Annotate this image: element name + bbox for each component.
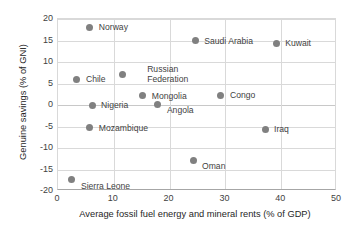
x-tick-label: 20 (149, 193, 189, 204)
gridline-vertical (281, 19, 282, 189)
data-point[interactable] (139, 92, 146, 99)
data-point-label: Iraq (274, 124, 289, 134)
data-point[interactable] (73, 76, 80, 83)
data-point[interactable] (68, 176, 75, 183)
y-tick-label: 15 (27, 35, 53, 45)
data-point-label: Saudi Arabia (204, 36, 253, 46)
data-point-label: Norway (99, 22, 128, 32)
data-point-label: Kuwait (285, 38, 311, 48)
data-point[interactable] (119, 71, 126, 78)
data-point[interactable] (86, 24, 93, 31)
gridline-horizontal (58, 19, 335, 20)
gridline-horizontal (58, 148, 335, 149)
data-point[interactable] (89, 102, 96, 109)
plot-area: NorwaySaudi ArabiaKuwaitRussianFederatio… (57, 18, 336, 190)
x-tick-label: 10 (93, 193, 133, 204)
y-tick-label: 20 (27, 13, 53, 23)
data-point[interactable] (192, 37, 199, 44)
data-point-label: Sierra Leone (81, 181, 130, 191)
data-point[interactable] (217, 92, 224, 99)
data-point[interactable] (154, 101, 161, 108)
gridline-horizontal (58, 62, 335, 63)
data-point-label: Chile (86, 74, 106, 84)
x-axis-tick-labels: 01020304050 (57, 193, 336, 207)
gridline-horizontal (58, 170, 335, 171)
data-point[interactable] (86, 124, 93, 131)
y-tick-label: 10 (27, 56, 53, 66)
x-tick-label: 30 (204, 193, 244, 204)
y-tick-label: -10 (27, 142, 53, 152)
data-point[interactable] (262, 126, 269, 133)
data-point[interactable] (190, 157, 197, 164)
data-point-label: Mozambique (99, 123, 148, 133)
data-point-label: RussianFederation (147, 64, 188, 84)
y-tick-label: 5 (27, 78, 53, 88)
x-tick-label: 0 (37, 193, 77, 204)
x-tick-label: 50 (316, 193, 356, 204)
y-axis-tick-labels: 20151050-5-10-15-20 (24, 18, 53, 190)
data-point-label: Oman (202, 161, 225, 171)
data-point-label: Congo (230, 90, 255, 100)
x-axis-title: Average fossil fuel energy and mineral r… (40, 208, 350, 220)
x-tick-label: 40 (260, 193, 300, 204)
data-point-label: Nigeria (101, 100, 128, 110)
y-tick-label: 0 (27, 99, 53, 109)
gridline-vertical (170, 19, 171, 189)
data-point-label: Angola (167, 105, 194, 115)
y-tick-label: -5 (27, 121, 53, 131)
data-point[interactable] (273, 40, 280, 47)
scatter-chart-figure: Genuine savings (% of GNI) 20151050-5-10… (0, 0, 357, 234)
data-point-label: Mongolia (152, 91, 187, 101)
y-tick-label: -15 (27, 164, 53, 174)
gridline-horizontal (58, 105, 335, 106)
